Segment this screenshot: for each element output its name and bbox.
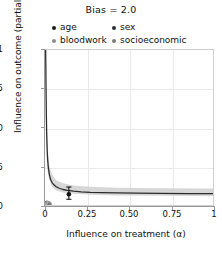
x-tick-label: 0.25 [67, 209, 107, 219]
legend-marker-dot-icon [52, 39, 56, 43]
x-axis-label: Influence on treatment (α) [30, 229, 222, 239]
bias-contour-line [46, 50, 213, 194]
legend-item-socioeconomic[interactable]: socioeconomic [112, 36, 216, 45]
legend-label: age [60, 23, 77, 32]
legend-marker-dot-icon [112, 26, 116, 30]
plot-area [44, 49, 214, 206]
y-axis-label: Influence on outcome (partial R2) [11, 0, 23, 138]
chart-canvas [45, 50, 213, 205]
x-tick-mark [172, 207, 173, 210]
legend-label: socioeconomic [120, 36, 187, 45]
legend-item-age[interactable]: age [52, 23, 112, 32]
axis-spine-bottom [44, 206, 215, 207]
y-tick-label: 0.75 [0, 83, 3, 93]
y-tick-label: 1 [0, 44, 3, 54]
y-axis-label-prefix: Influence on outcome (partial [13, 0, 23, 133]
errorbar-point-marker[interactable] [67, 192, 72, 197]
x-tick-mark [214, 207, 215, 210]
x-tick-label: 0.75 [152, 209, 192, 219]
legend-marker-dot-icon [52, 26, 56, 30]
confidence-band [46, 50, 213, 196]
chart-figure: Bias = 2.0 age sex bloodwork socioeconom… [0, 0, 222, 254]
legend-marker-dot-icon [112, 39, 116, 43]
axis-spine-left [44, 49, 45, 207]
x-tick-mark [87, 207, 88, 210]
y-tick-label: 0.25 [0, 162, 3, 172]
x-tick-label: 0 [25, 209, 65, 219]
y-tick-label: 0.50 [0, 123, 3, 133]
y-tick-label: 0 [0, 201, 3, 211]
x-tick-label: 0.50 [109, 209, 149, 219]
x-tick-label: 1 [194, 209, 222, 219]
chart-legend: age sex bloodwork socioeconomic [52, 21, 216, 47]
chart-title: Bias = 2.0 [0, 4, 222, 15]
legend-item-sex[interactable]: sex [112, 23, 216, 32]
x-tick-mark [129, 207, 130, 210]
x-tick-mark [45, 207, 46, 210]
legend-label: bloodwork [60, 36, 107, 45]
legend-item-bloodwork[interactable]: bloodwork [52, 36, 112, 45]
legend-label: sex [120, 23, 135, 32]
